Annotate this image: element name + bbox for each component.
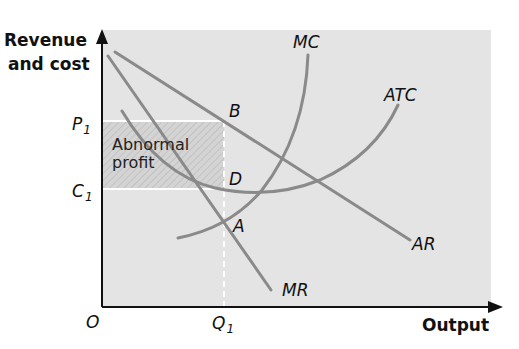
abnormal-profit-label-line1: Abnormal — [112, 135, 189, 154]
economics-diagram: Revenue and cost Output O P1 C1 Q1 MC AT… — [0, 0, 519, 349]
atc-label: ATC — [383, 85, 417, 105]
c1-label: C1 — [72, 181, 93, 204]
y-axis-label-line1: Revenue — [4, 30, 87, 50]
x-axis-arrow-icon — [488, 301, 503, 313]
point-b-label: B — [229, 101, 241, 121]
mc-label: MC — [293, 32, 320, 52]
point-d-label: D — [229, 169, 242, 189]
ar-label: AR — [411, 234, 435, 254]
x-axis-label: Output — [422, 315, 489, 335]
y-axis-label-line2: and cost — [8, 54, 90, 74]
p1-label: P1 — [72, 114, 91, 137]
mr-label: MR — [282, 280, 308, 300]
abnormal-profit-label-line2: profit — [112, 153, 155, 172]
point-a-label: A — [232, 216, 245, 236]
origin-label: O — [86, 312, 99, 332]
q1-label: Q1 — [212, 313, 234, 336]
